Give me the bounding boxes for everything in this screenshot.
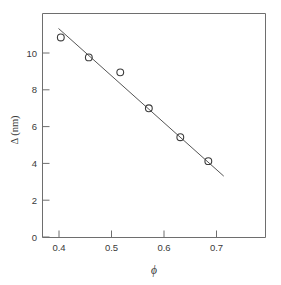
y-tick-label-2: 2 — [32, 195, 37, 206]
y-tick-label-10: 10 — [26, 48, 37, 59]
plot-frame — [43, 14, 266, 238]
data-point — [145, 105, 152, 112]
y-tick-label-6: 6 — [32, 121, 37, 132]
y-axis-title: Δ (nm) — [9, 115, 21, 145]
x-axis-title: ϕ — [151, 264, 157, 277]
data-point — [57, 34, 64, 41]
y-axis-ticks — [43, 53, 50, 237]
x-tick-label-0p4: 0.4 — [52, 242, 65, 253]
x-axis-ticks — [59, 231, 217, 238]
x-tick-labels: 0.4 0.5 0.6 0.7 — [52, 242, 223, 253]
scatter-plot: 0 2 4 6 8 10 0.4 0.5 0.6 0.7 ϕ Δ (nm) — [0, 0, 281, 285]
chart-figure: 0 2 4 6 8 10 0.4 0.5 0.6 0.7 ϕ Δ (nm) — [0, 0, 281, 285]
y-tick-label-4: 4 — [32, 158, 37, 169]
y-tick-label-8: 8 — [32, 84, 37, 95]
data-point — [205, 158, 212, 165]
linear-fit-line — [59, 28, 224, 176]
x-tick-label-0p6: 0.6 — [157, 242, 170, 253]
x-tick-label-0p5: 0.5 — [105, 242, 118, 253]
y-tick-labels: 0 2 4 6 8 10 — [26, 48, 37, 243]
fit-line-group — [59, 28, 224, 176]
x-tick-label-0p7: 0.7 — [210, 242, 223, 253]
y-tick-label-0: 0 — [32, 232, 37, 243]
data-point — [117, 69, 124, 76]
